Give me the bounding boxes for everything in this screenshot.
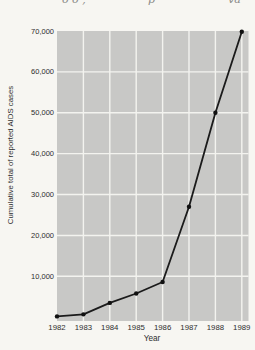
x-tick-label: 1984 xyxy=(101,323,119,332)
data-point xyxy=(240,30,244,34)
y-tick-label: 20,000 xyxy=(31,231,54,240)
plot-area xyxy=(57,31,249,321)
data-point xyxy=(55,314,59,318)
y-tick-label: 60,000 xyxy=(31,67,54,76)
y-tick-label: 40,000 xyxy=(31,149,54,158)
x-axis-title: Year xyxy=(144,334,161,343)
data-point xyxy=(213,111,217,115)
x-tick-label: 1985 xyxy=(128,323,146,332)
y-tick-label: 30,000 xyxy=(31,190,54,199)
data-point xyxy=(134,291,138,295)
data-point xyxy=(160,280,164,284)
scanned-page: o o , p va 10,00020,00030,00040,00050,00… xyxy=(0,0,255,350)
data-point xyxy=(81,312,85,316)
x-tick-label: 1983 xyxy=(75,323,92,332)
aids-cases-chart: 10,00020,00030,00040,00050,00060,00070,0… xyxy=(0,0,255,350)
data-point xyxy=(108,301,112,305)
x-tick-label: 1987 xyxy=(180,323,197,332)
x-tick-label: 1986 xyxy=(154,323,171,332)
x-tick-label: 1988 xyxy=(207,323,224,332)
data-point xyxy=(187,205,191,209)
y-tick-label: 50,000 xyxy=(31,108,54,117)
y-axis-title: Cumulative total of reported AIDS cases xyxy=(6,86,15,224)
x-tick-label: 1989 xyxy=(233,323,250,332)
y-tick-label: 70,000 xyxy=(31,27,54,36)
x-tick-label: 1982 xyxy=(48,323,65,332)
y-tick-label: 10,000 xyxy=(31,272,54,281)
